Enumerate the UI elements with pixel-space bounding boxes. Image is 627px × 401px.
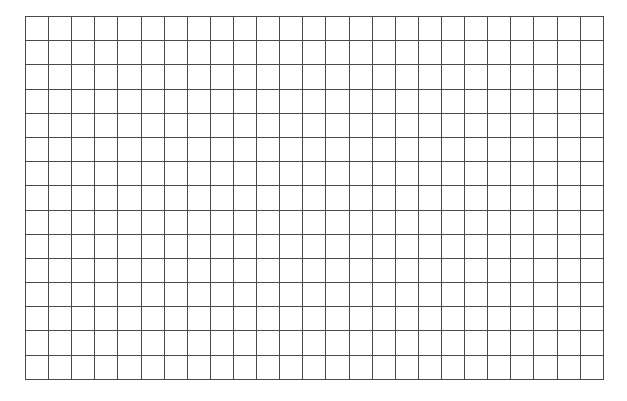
grid-cell	[511, 186, 534, 210]
grid-cell	[118, 258, 141, 282]
grid-cell	[280, 65, 303, 89]
grid-cell	[187, 307, 210, 331]
grid-cell	[72, 234, 95, 258]
grid-cell	[534, 210, 557, 234]
grid-row	[26, 41, 604, 65]
grid-cell	[210, 307, 233, 331]
grid-cell	[164, 137, 187, 161]
grid-cell	[418, 355, 441, 379]
grid-cell	[418, 89, 441, 113]
grid-cell	[257, 283, 280, 307]
grid-cell	[418, 17, 441, 41]
grid-cell	[349, 355, 372, 379]
grid-cell	[557, 210, 580, 234]
grid-cell	[95, 186, 118, 210]
grid-cell	[303, 113, 326, 137]
grid-cell	[511, 162, 534, 186]
grid-cell	[557, 283, 580, 307]
grid-cell	[49, 234, 72, 258]
grid-cell	[349, 307, 372, 331]
grid-cell	[488, 162, 511, 186]
grid-cell	[141, 331, 164, 355]
grid-cell	[164, 162, 187, 186]
grid-cell	[141, 283, 164, 307]
grid-cell	[233, 355, 256, 379]
grid-cell	[534, 162, 557, 186]
grid-cell	[26, 137, 49, 161]
grid-cell	[534, 17, 557, 41]
grid-cell	[488, 283, 511, 307]
grid-cell	[118, 307, 141, 331]
grid-cell	[141, 186, 164, 210]
grid-cell	[349, 331, 372, 355]
grid-cell	[441, 65, 464, 89]
grid-cell	[580, 113, 603, 137]
grid-cell	[303, 210, 326, 234]
grid-cell	[349, 210, 372, 234]
grid-row	[26, 258, 604, 282]
grid-cell	[72, 258, 95, 282]
grid-cell	[233, 113, 256, 137]
grid-cell	[580, 355, 603, 379]
grid-cell	[465, 162, 488, 186]
grid-cell	[72, 41, 95, 65]
grid-cell	[118, 65, 141, 89]
grid-cell	[72, 113, 95, 137]
grid-cell	[164, 258, 187, 282]
grid-cell	[441, 162, 464, 186]
grid-cell	[49, 41, 72, 65]
grid-cell	[395, 331, 418, 355]
grid-row	[26, 65, 604, 89]
grid-cell	[118, 331, 141, 355]
grid-cell	[118, 17, 141, 41]
grid-cell	[580, 186, 603, 210]
grid-cell	[210, 234, 233, 258]
grid-cell	[511, 355, 534, 379]
grid-cell	[95, 210, 118, 234]
grid-row	[26, 162, 604, 186]
grid-cell	[49, 283, 72, 307]
grid-cell	[118, 355, 141, 379]
grid-cell	[441, 41, 464, 65]
grid-cell	[395, 258, 418, 282]
grid-cell	[95, 41, 118, 65]
grid-cell	[233, 65, 256, 89]
grid-cell	[280, 162, 303, 186]
grid-cell	[418, 65, 441, 89]
grid-cell	[257, 186, 280, 210]
grid-cell	[164, 186, 187, 210]
grid-row	[26, 137, 604, 161]
grid-cell	[233, 307, 256, 331]
grid-cell	[511, 137, 534, 161]
grid-cell	[557, 331, 580, 355]
grid-cell	[26, 283, 49, 307]
grid-cell	[326, 234, 349, 258]
grid-cell	[210, 17, 233, 41]
grid-cell	[441, 307, 464, 331]
grid-cell	[511, 258, 534, 282]
grid-cell	[233, 210, 256, 234]
grid-cell	[26, 17, 49, 41]
grid-cell	[395, 89, 418, 113]
grid-cell	[233, 89, 256, 113]
grid-cell	[118, 113, 141, 137]
grid-cell	[210, 89, 233, 113]
grid-cell	[465, 137, 488, 161]
grid-cell	[534, 113, 557, 137]
grid-cell	[511, 210, 534, 234]
grid-cell	[418, 113, 441, 137]
grid-cell	[257, 17, 280, 41]
grid-cell	[164, 113, 187, 137]
grid-cell	[441, 331, 464, 355]
grid-cell	[141, 307, 164, 331]
grid-cell	[511, 41, 534, 65]
grid-cell	[210, 355, 233, 379]
grid-cell	[534, 331, 557, 355]
grid-cell	[303, 258, 326, 282]
grid-cell	[95, 17, 118, 41]
grid-cell	[372, 65, 395, 89]
grid-cell	[511, 65, 534, 89]
grid-cell	[280, 210, 303, 234]
grid-cell	[557, 186, 580, 210]
grid-cell	[141, 137, 164, 161]
